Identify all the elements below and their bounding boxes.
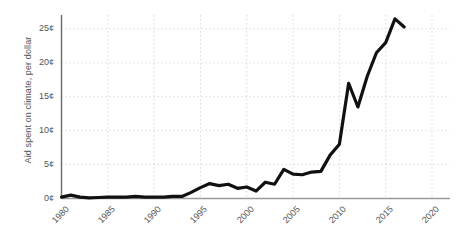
y-tick-label: 0¢ xyxy=(24,193,54,203)
y-tick-label: 25¢ xyxy=(24,23,54,33)
y-tick-label: 20¢ xyxy=(24,57,54,67)
y-tick-label: 15¢ xyxy=(24,91,54,101)
y-gridlines xyxy=(62,29,451,165)
chart-figure: Aid spent on climate, per dollar 0¢5¢10¢… xyxy=(0,0,457,243)
data-series-line xyxy=(62,19,405,198)
y-tick-label: 10¢ xyxy=(24,125,54,135)
x-gridlines xyxy=(108,15,432,199)
y-tick-label: 5¢ xyxy=(24,159,54,169)
